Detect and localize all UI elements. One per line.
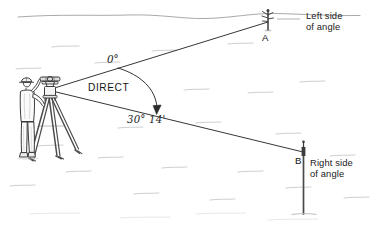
- surveyor-with-transit: [17, 76, 82, 161]
- direct-mode-label: DIRECT: [88, 82, 129, 93]
- station-b-side-label-line1: Right side: [310, 157, 353, 168]
- station-b-side-label: Right sideof angle: [310, 158, 353, 179]
- theodolite-head: [40, 76, 60, 100]
- angle-value-label: 30° 14': [127, 114, 165, 125]
- station-a-marker: [262, 9, 274, 31]
- zero-reference-label: 0°: [107, 54, 119, 66]
- ground-texture-faint: [30, 213, 318, 220]
- sight-line-to-b: [48, 90, 303, 152]
- station-a-side-label-line1: Left side: [306, 10, 343, 21]
- surveying-angle-diagram: Left sideof angle Right sideof angle DIR…: [0, 0, 378, 228]
- station-b-side-label-line2: of angle: [310, 168, 344, 179]
- tripod: [29, 96, 82, 161]
- station-a-side-label-line2: of angle: [306, 21, 340, 32]
- station-a-label: A: [262, 33, 269, 44]
- station-b-label: B: [295, 156, 302, 167]
- sight-line-to-a: [48, 22, 268, 90]
- station-a-side-label: Left sideof angle: [306, 11, 343, 32]
- diagram-canvas: [0, 0, 378, 228]
